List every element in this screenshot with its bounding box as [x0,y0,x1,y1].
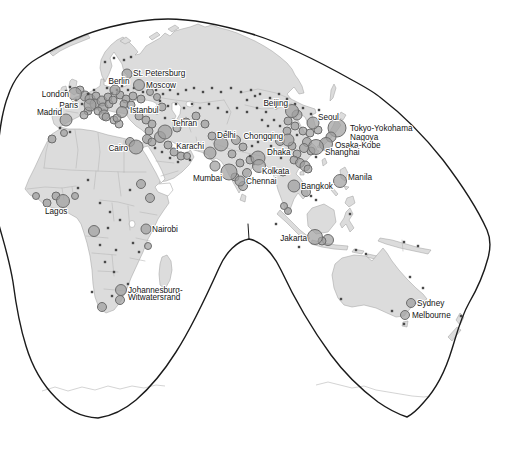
town-dot [310,113,312,115]
town-dot [261,119,263,121]
unlabeled-city-circle [80,111,88,119]
city-label-chennai: Chennai [246,177,277,186]
town-dot [250,89,252,91]
town-dot [161,151,163,153]
town-dot [296,134,298,136]
city-label-tehran: Tehran [172,119,197,128]
map-svg: LondonParisMadridBerlinSt. PetersburgMos… [0,0,521,449]
city-circle-london [69,88,82,101]
city-circle-jakarta [308,230,323,245]
city-label-bangkok: Bangkok [301,182,334,191]
town-dot [193,87,195,89]
city-label-paris: Paris [59,101,78,110]
unlabeled-city-circle [291,122,299,130]
city-label-cairo: Cairo [108,144,128,153]
unlabeled-city-circle [158,103,166,111]
town-dot [310,195,312,197]
town-dot [315,156,317,158]
world-map-figure: LondonParisMadridBerlinSt. PetersburgMos… [0,0,521,449]
city-circle-moscow [134,80,145,91]
town-dot [177,161,179,163]
unlabeled-city-circle [236,159,244,167]
city-label-lagos: Lagos [45,207,67,216]
town-dot [280,157,282,159]
town-dot [230,87,232,89]
city-label-tokyo-yokohama: Tokyo-Yokohama [350,124,413,133]
city-label-madrid: Madrid [37,108,62,117]
town-dot [106,87,108,89]
unlabeled-city-circle [116,296,125,305]
city-label-nairobi: Nairobi [152,225,178,234]
town-dot [129,189,131,191]
town-dot [81,103,83,105]
city-circle-chongqing [282,134,294,146]
island-lesser-sunda-1 [352,249,364,254]
city-circle-cairo [129,140,143,154]
unlabeled-city-circle [61,130,68,137]
island-borneo [307,204,336,234]
unlabeled-city-circle [228,150,236,158]
town-dot [164,117,166,119]
city-circle-nairobi [141,224,151,234]
town-dot [278,93,280,95]
town-dot [99,244,101,246]
city-label-delhi: Delhi [217,131,236,140]
unlabeled-city-circle [145,243,152,250]
town-dot [403,241,405,243]
unlabeled-city-circle [98,303,107,312]
town-dot [199,107,201,109]
city-circle-lagos [57,195,70,208]
town-dot [240,91,242,93]
town-dot [123,59,125,61]
town-dot [340,298,342,300]
town-dot [138,251,140,253]
unlabeled-city-circle [304,165,312,173]
town-dot [169,157,171,159]
town-dot [246,99,248,101]
town-dot [211,87,213,89]
city-circle-karachi [204,147,216,159]
unlabeled-city-circle [210,161,220,171]
town-dot [115,249,117,251]
city-label-jakarta: Jakarta [280,234,307,243]
unlabeled-city-circle [184,153,191,160]
town-dot [185,89,187,91]
town-dot [298,246,300,248]
unlabeled-city-circle [48,135,56,143]
town-dot [93,89,95,91]
town-dot [259,93,261,95]
city-label-london: London [42,90,70,99]
city-label-mumbai: Mumbai [193,174,222,183]
town-dot [365,253,367,255]
town-dot [254,95,256,97]
town-dot [275,223,277,225]
town-dot [167,105,169,107]
unlabeled-city-circle [137,180,146,189]
town-dot [159,100,161,102]
town-dot [107,227,109,229]
town-dot [175,103,177,105]
unlabeled-city-circle [109,96,117,104]
unlabeled-city-circle [201,120,209,128]
antarctic-coastlines [42,382,430,397]
town-dot [422,287,424,289]
city-circle-johannesburg-witwatersrand [116,285,127,296]
city-label-st-petersburg: St. Petersburg [133,69,186,78]
city-label-sydney: Sydney [417,299,445,308]
city-label-moscow: Moscow [146,81,176,90]
town-dot [355,249,357,251]
unlabeled-city-circle [146,194,155,203]
city-label-johannesburg-witwatersrand: Johannesburg-Witwatersrand [128,286,183,302]
town-dot [273,119,275,121]
unlabeled-city-circle [43,199,51,207]
island-sakhalin [330,84,336,101]
town-dot [130,56,132,58]
city-label-beijing: Beijing [263,99,288,108]
town-dot [127,283,129,285]
city-circle-sydney [407,299,416,308]
unlabeled-city-circle [89,226,100,237]
city-label-dhaka: Dhaka [267,148,291,157]
town-dot [104,61,106,63]
city-circle-mumbai [221,164,237,180]
town-dot [265,111,267,113]
